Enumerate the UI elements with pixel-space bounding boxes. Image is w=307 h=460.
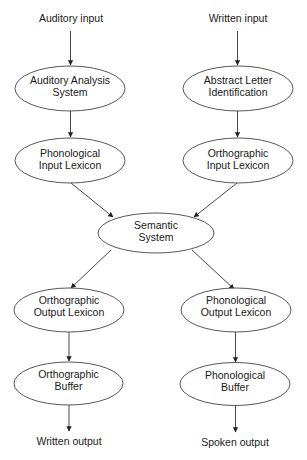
node-label-line2: Input Lexicon (39, 159, 102, 171)
diagram-canvas: Auditory input Written input Auditory An… (0, 0, 307, 460)
node-label-line2: Input Lexicon (207, 159, 270, 171)
language-processing-diagram: Auditory input Written input Auditory An… (0, 0, 307, 460)
node-label-line1: Orthographic (38, 368, 99, 380)
node-abstract-letter-identification: Abstract Letter Identification (183, 66, 293, 111)
node-phonological-output-lexicon: Phonological Output Lexicon (181, 288, 291, 332)
node-label-line1: Phonological (206, 294, 266, 306)
written-output-label: Written output (36, 435, 101, 447)
node-label-line2: Identification (209, 86, 268, 98)
node-label-line2: Buffer (221, 381, 249, 393)
node-label-line1: Abstract Letter (204, 74, 273, 86)
node-label-line1: Orthographic (208, 147, 269, 159)
node-label-line2: System (52, 86, 87, 98)
node-phonological-buffer: Phonological Buffer (180, 363, 290, 406)
node-orthographic-buffer: Orthographic Buffer (14, 362, 123, 405)
node-label-line2: System (138, 231, 173, 243)
node-orthographic-input-lexicon: Orthographic Input Lexicon (183, 138, 293, 183)
node-auditory-analysis-system: Auditory Analysis System (15, 66, 125, 111)
node-label-line2: Output Lexicon (34, 306, 105, 318)
node-orthographic-output-lexicon: Orthographic Output Lexicon (14, 288, 124, 332)
node-phonological-input-lexicon: Phonological Input Lexicon (15, 138, 125, 183)
edge-semantic-to-orth-output (71, 250, 111, 288)
node-label-line1: Semantic (134, 219, 178, 231)
node-label-line1: Phonological (205, 369, 265, 381)
written-input-label: Written input (209, 12, 268, 24)
node-label-line2: Buffer (55, 380, 83, 392)
edge-semantic-to-phon-output (192, 250, 234, 289)
node-label-line1: Auditory Analysis (30, 74, 110, 86)
auditory-input-label: Auditory input (39, 12, 103, 24)
spoken-output-label: Spoken output (201, 436, 269, 448)
node-label-line2: Output Lexicon (201, 306, 272, 318)
edge-phon-input-to-semantic (71, 183, 113, 217)
node-label-line1: Phonological (40, 147, 100, 159)
node-label-line1: Orthographic (39, 294, 100, 306)
edge-orth-input-to-semantic (194, 183, 237, 217)
node-semantic-system: Semantic System (98, 213, 214, 253)
